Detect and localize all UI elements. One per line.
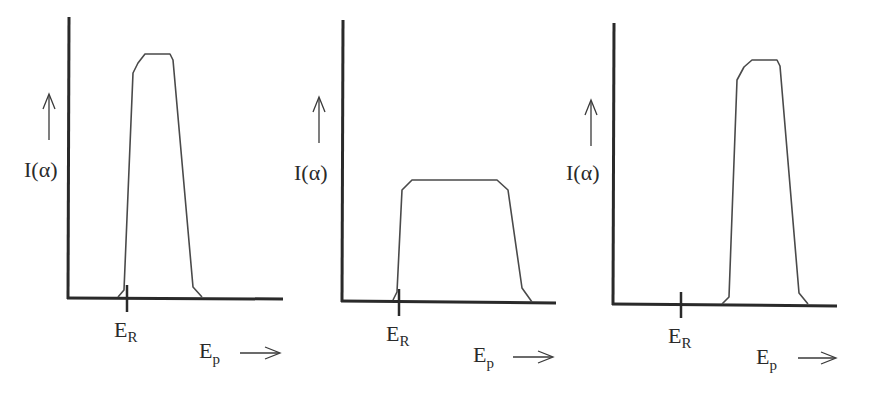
x-axis [67, 298, 283, 299]
y-axis [342, 20, 343, 302]
figure: I(α) ER Ep I(α) ER Ep [0, 0, 870, 397]
up-arrow-icon [43, 94, 55, 140]
y-axis-label: I(α) [566, 160, 600, 185]
right-arrow-icon [240, 347, 280, 359]
y-axis-label: I(α) [294, 160, 328, 185]
er-label: ER [386, 321, 409, 349]
x-axis-label: Ep [199, 338, 220, 367]
x-axis-label: Ep [473, 342, 494, 371]
x-axis [612, 304, 837, 306]
y-axis-label: I(α) [24, 157, 58, 182]
panel-3: I(α) ER Ep [566, 23, 837, 373]
x-axis-label: Ep [756, 344, 777, 373]
intensity-curve [118, 54, 202, 297]
intensity-curve [722, 60, 808, 304]
er-label: ER [668, 323, 691, 351]
y-axis [68, 17, 69, 299]
up-arrow-icon [313, 97, 325, 143]
x-axis [341, 301, 556, 303]
er-label: ER [114, 317, 137, 345]
intensity-curve [393, 180, 532, 302]
panel-1: I(α) ER Ep [24, 17, 283, 367]
y-axis [613, 23, 614, 305]
panel-2: I(α) ER Ep [294, 20, 556, 371]
right-arrow-icon [798, 352, 836, 364]
up-arrow-icon [585, 100, 597, 146]
right-arrow-icon [513, 351, 553, 363]
